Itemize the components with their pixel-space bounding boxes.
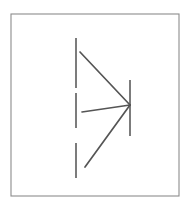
figure-border (11, 14, 179, 196)
figure-canvas (0, 0, 186, 215)
figure-container (0, 0, 186, 215)
